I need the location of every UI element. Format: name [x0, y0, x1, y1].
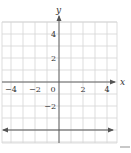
x-tick-label: 2: [80, 85, 85, 94]
x-tick-label: 0: [50, 85, 55, 94]
x-tick-label: −2: [29, 85, 41, 94]
y-tick-label: 4: [51, 30, 56, 39]
tick-labels: −4−202442−2: [5, 30, 109, 111]
y-tick-label: −2: [44, 102, 56, 111]
coordinate-plane: xy −4−202442−2: [0, 0, 131, 153]
y-axis-label: y: [55, 5, 62, 15]
x-tick-label: −4: [5, 85, 17, 94]
corner-mark: [120, 146, 130, 148]
x-tick-label: 4: [104, 85, 109, 94]
y-tick-label: 2: [51, 54, 56, 63]
x-axis-label: x: [120, 77, 125, 87]
grid: [2, 22, 117, 143]
